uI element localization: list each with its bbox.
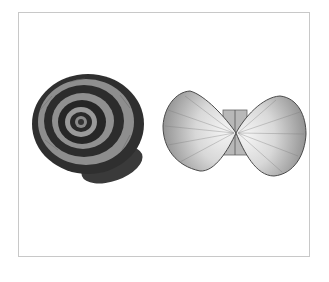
shells-illustration (0, 0, 329, 282)
snail-shell (32, 74, 148, 191)
scallop-shell (163, 91, 306, 176)
